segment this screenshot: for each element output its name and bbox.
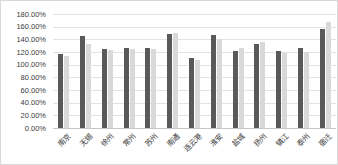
x-tick-label: 盐城 [230, 132, 246, 148]
y-tick-label: 40.00% [21, 98, 46, 107]
x-axis-line [53, 128, 336, 129]
y-tick-label: 180.00% [16, 10, 46, 19]
bar-series-dark [58, 54, 63, 128]
bar-series-light [195, 60, 200, 128]
gridline [53, 27, 336, 28]
bar-series-dark [124, 48, 129, 128]
bar-series-dark [167, 34, 172, 128]
bar-series-light [326, 22, 331, 128]
y-tick-label: 120.00% [16, 48, 46, 57]
bar-series-light [64, 56, 69, 128]
x-tick-label: 南通 [165, 132, 181, 148]
x-tick-label: 扬州 [252, 132, 268, 148]
bar-series-dark [211, 35, 216, 128]
y-tick-label: 100.00% [16, 60, 46, 69]
x-tick-label: 镇江 [274, 132, 290, 148]
y-tick-label: 60.00% [21, 86, 46, 95]
x-tick-label: 常州 [121, 132, 137, 148]
y-tick-label: 140.00% [16, 35, 46, 44]
bar-series-dark [233, 51, 238, 128]
x-tick-label: 连云港 [182, 132, 203, 153]
y-tick-label: 80.00% [21, 73, 46, 82]
bar-series-dark [80, 36, 85, 128]
bar-series-dark [320, 29, 325, 128]
bar-series-dark [298, 48, 303, 128]
bar-series-light [282, 53, 287, 128]
bar-series-dark [189, 58, 194, 128]
x-tick-label: 苏州 [143, 132, 159, 148]
bar-series-light [239, 48, 244, 128]
x-tick-label: 宿迁 [317, 132, 333, 148]
x-tick-label: 淮安 [208, 132, 224, 148]
x-tick-label: 南京 [56, 132, 72, 148]
x-tick-label: 徐州 [100, 132, 116, 148]
bar-series-dark [145, 48, 150, 128]
bar-series-light [260, 42, 265, 128]
bar-series-light [108, 50, 113, 128]
bar-series-light [217, 39, 222, 128]
bar-series-light [304, 52, 309, 128]
bar-series-light [173, 33, 178, 128]
y-tick-label: 0.00% [25, 124, 46, 133]
bar-series-light [151, 49, 156, 128]
x-tick-label: 泰州 [295, 132, 311, 148]
bar-chart: 0.00%20.00%40.00%60.00%80.00%100.00%120.… [0, 0, 338, 165]
y-tick-label: 160.00% [16, 22, 46, 31]
bar-series-dark [254, 44, 259, 128]
gridline [53, 14, 336, 15]
y-tick-label: 20.00% [21, 111, 46, 120]
bar-series-dark [276, 51, 281, 128]
gridline [53, 52, 336, 53]
bar-series-dark [102, 49, 107, 128]
bar-series-light [130, 49, 135, 128]
x-tick-label: 无锡 [78, 132, 94, 148]
gridline [53, 39, 336, 40]
bar-series-light [86, 44, 91, 128]
